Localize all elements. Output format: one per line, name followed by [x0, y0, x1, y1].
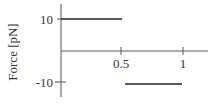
y-tick-label-10: 10: [40, 12, 53, 27]
x-tick-label-0.5: 0.5: [113, 56, 129, 71]
y-axis-label: Force [pN]: [5, 23, 20, 80]
y-tick-label-neg10: -10: [36, 75, 53, 90]
force-chart: 10 -10 0.5 1 Force [pN]: [0, 0, 208, 105]
x-tick-label-1: 1: [180, 56, 187, 71]
